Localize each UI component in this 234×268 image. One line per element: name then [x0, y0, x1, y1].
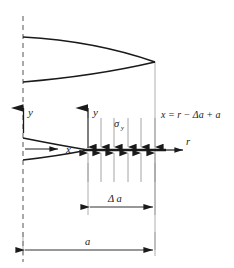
delta-a-label: Δ a — [107, 193, 122, 204]
a-label: a — [85, 236, 90, 247]
diagram-canvas: x y r y σ — [0, 0, 234, 268]
crack-tip-diagram: x y r y σ — [0, 0, 234, 268]
sigma-subscript: y — [120, 124, 124, 131]
lower-crack-bottom-edge — [23, 150, 88, 160]
y-axis-tip-label: y — [92, 106, 98, 118]
upper-crack-bottom-edge — [23, 62, 155, 82]
sigma-symbol: σ — [114, 118, 120, 129]
stress-symbol-group: σ y — [114, 118, 124, 131]
y-axis-left-label: y — [27, 106, 33, 118]
lower-crack-top-edge — [23, 138, 88, 150]
stress-arrows-lower — [88, 153, 155, 182]
x-axis-label: x — [65, 143, 71, 155]
r-axis-label: r — [186, 136, 191, 147]
equation-label: x = r − Δa + a — [160, 109, 220, 120]
stress-arrows-upper — [88, 118, 155, 147]
upper-crack-top-edge — [23, 37, 155, 62]
